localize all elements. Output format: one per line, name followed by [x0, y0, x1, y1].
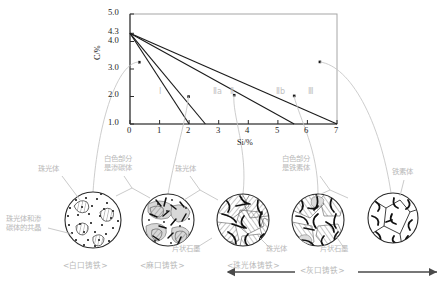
specimen-label-mottled-cast-iron: <麻口铸铁>	[140, 262, 185, 271]
callout-pearlite-right: 珠光体	[266, 245, 287, 254]
callout-ferrite: 铁素体	[392, 168, 413, 177]
region-label-III: Ⅲ	[308, 87, 314, 96]
specimen-label-gray-cast-iron: <灰口铸铁>	[300, 267, 345, 276]
x-tick-3: 3	[216, 126, 220, 136]
specimen-label-white-cast-iron: <白口铸铁>	[63, 262, 108, 271]
y-tick-3.0: 3.0	[108, 63, 119, 73]
x-tick-7: 7	[334, 126, 338, 136]
callout-white-is-ferrite: 白色部分 是铁素体	[282, 155, 310, 172]
leader-white-cementite	[116, 176, 132, 196]
region-label-I: Ⅰ	[159, 87, 161, 96]
specimen-gray-cast-iron	[366, 188, 422, 248]
callout-white-is-cementite: 白色部分 是渗碳体	[104, 155, 132, 172]
x-tick-6: 6	[304, 126, 308, 136]
x-tick-5: 5	[275, 126, 279, 136]
leader-pearlite-left	[62, 176, 80, 200]
x-tick-2: 2	[186, 126, 190, 136]
callout-pearlite-mid: 珠光体	[175, 165, 196, 174]
specimen-white-cast-iron	[65, 192, 121, 248]
y-tick-4.0: 4.0	[108, 36, 119, 46]
specimen-pearlitic-cast-iron-b	[288, 192, 344, 250]
y-tick-1.0: 1.0	[108, 118, 119, 128]
plot-frame	[130, 14, 337, 124]
x-axis-title: Si/%	[237, 138, 253, 147]
specimen-mottled-cast-iron	[142, 194, 194, 246]
callout-pearlite-eutectic: 珠光体和渗 碳体的共晶	[6, 215, 41, 232]
x-tick-0: 0	[127, 126, 131, 136]
callout-pearlite-left: 珠光体	[38, 165, 59, 174]
figure-vector	[0, 0, 446, 294]
region-label-IIb: Ⅱb	[276, 87, 285, 96]
region-label-II: Ⅱ	[230, 87, 234, 96]
callout-flake-graphite-right: 片状石墨	[320, 245, 348, 254]
specimen-label-pearlitic-cast-iron: <珠光体铸铁>	[227, 262, 280, 271]
leader-pearlite-mid	[184, 176, 200, 200]
x-tick-4: 4	[245, 126, 249, 136]
y-axis-title: C/%	[93, 45, 102, 60]
leader-white-cementite-2	[132, 188, 150, 198]
region-label-IIa: Ⅱa	[213, 87, 222, 96]
y-tick-5.0: 5.0	[108, 8, 119, 18]
leader-ferrite-right	[400, 180, 404, 196]
leader-white-ferrite-2	[330, 190, 348, 198]
y-tick-2.0: 2.0	[108, 90, 119, 100]
figure-canvas: 5.0 4.3 4.0 3.0 2.0 1.0 C/% 0 1 2 3 4 5 …	[0, 0, 446, 294]
x-tick-1: 1	[157, 126, 161, 136]
leader-pearlite-mid-2	[200, 190, 218, 200]
callout-flake-graphite-left: 片状石墨	[172, 245, 200, 254]
